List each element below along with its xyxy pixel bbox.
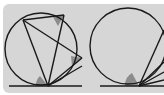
chord: [23, 20, 48, 86]
geometry-diagram: [0, 0, 164, 95]
figure-right: [90, 8, 164, 86]
chord: [23, 20, 82, 58]
circle: [5, 13, 77, 85]
chord: [139, 30, 164, 86]
chord: [48, 66, 82, 86]
figure-left: [5, 13, 82, 86]
